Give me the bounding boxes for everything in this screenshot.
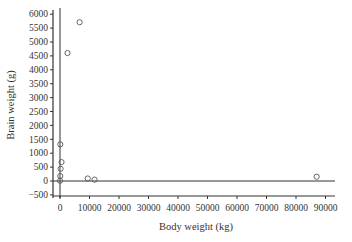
- y-tick-label: 500: [34, 162, 49, 172]
- y-axis-title: Brain weight (g): [5, 70, 17, 140]
- data-point: [85, 176, 90, 181]
- data-point: [77, 20, 82, 25]
- y-tick-label: 0: [43, 176, 48, 186]
- x-tick-label: 70000: [255, 203, 279, 213]
- x-tick-label: 40000: [166, 203, 190, 213]
- x-tick-label: 50000: [196, 203, 220, 213]
- x-tick-label: 10000: [78, 203, 102, 213]
- y-tick-label: 3500: [29, 79, 48, 89]
- x-tick-label: 60000: [225, 203, 249, 213]
- y-tick-label: −500: [28, 190, 48, 200]
- x-axis: 0100002000030000400005000060000700008000…: [53, 196, 338, 213]
- y-tick-label: 5500: [29, 23, 48, 33]
- y-tick-label: 4000: [29, 65, 48, 75]
- scatter-chart: −500050010001500200025003000350040004500…: [0, 0, 352, 242]
- y-tick-label: 2500: [29, 107, 48, 117]
- data-points: [57, 20, 319, 184]
- x-tick-label: 0: [58, 203, 63, 213]
- x-tick-label: 80000: [284, 203, 308, 213]
- reference-lines: [53, 8, 335, 198]
- x-tick-label: 30000: [137, 203, 161, 213]
- data-point: [65, 50, 70, 55]
- y-tick-label: 1500: [29, 135, 48, 145]
- y-tick-label: 6000: [29, 9, 48, 19]
- y-tick-label: 4500: [29, 51, 48, 61]
- y-tick-label: 3000: [29, 93, 48, 103]
- x-tick-label: 90000: [314, 203, 338, 213]
- x-axis-title: Body weight (kg): [159, 221, 234, 233]
- y-tick-label: 2000: [29, 121, 48, 131]
- data-point: [58, 166, 63, 171]
- y-tick-label: 1000: [29, 148, 48, 158]
- x-tick-label: 20000: [107, 203, 131, 213]
- y-axis: −500050010001500200025003000350040004500…: [28, 9, 53, 200]
- data-point: [314, 174, 319, 179]
- y-tick-label: 5000: [29, 37, 48, 47]
